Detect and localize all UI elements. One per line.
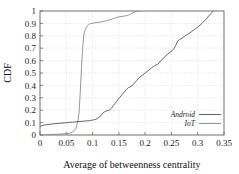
y-tick-label: 0.2	[25, 105, 36, 115]
y-tick-label: 0.9	[25, 19, 37, 29]
y-tick-label: 0.3	[25, 93, 37, 103]
y-tick-label: 0.6	[25, 56, 37, 66]
y-tick-label: 1	[32, 6, 37, 16]
cdf-chart-figure: 00.050.10.150.20.250.30.35 00.10.20.30.4…	[0, 0, 239, 174]
x-tick-label: 0.25	[164, 138, 180, 148]
y-tick-label: 0.5	[25, 68, 37, 78]
x-tick-label: 0.2	[140, 138, 151, 148]
x-axis-label: Average of betweenness centrality	[63, 159, 200, 170]
y-tick-label: 0.1	[25, 118, 36, 128]
y-tick-label: 0.4	[25, 81, 37, 91]
y-axis-label: CDF	[2, 63, 13, 83]
x-tick-label: 0.15	[111, 138, 127, 148]
y-tick-label: 0.8	[25, 31, 37, 41]
chart-canvas: 00.050.10.150.20.250.30.35 00.10.20.30.4…	[0, 0, 239, 174]
x-tick-label: 0.3	[192, 138, 204, 148]
y-tick-label: 0.7	[25, 43, 37, 53]
legend-label-iot: IoT	[184, 119, 196, 128]
x-tick-label: 0.1	[87, 138, 98, 148]
legend-label-android: Android	[170, 110, 196, 119]
x-tick-label: 0	[38, 138, 43, 148]
x-tick-label: 0.05	[58, 138, 74, 148]
y-tick-label: 0	[32, 130, 37, 140]
x-tick-label: 0.35	[216, 138, 232, 148]
